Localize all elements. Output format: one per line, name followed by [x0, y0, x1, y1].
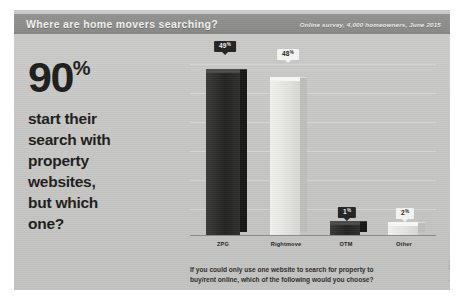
infographic-card: Where are home movers searching? Online … [14, 10, 450, 290]
headline-line: search with [28, 129, 178, 150]
category-label-zpg: ZPG [217, 241, 229, 247]
bar-value-percent: % [290, 50, 294, 55]
bar-front-face [270, 81, 300, 235]
headline-text: start their search with property website… [28, 108, 178, 234]
header-band: Where are home movers searching? Online … [14, 14, 450, 34]
category-label-otm: OTM [339, 241, 352, 247]
bar-otm [330, 225, 360, 235]
headline-line: but which [28, 192, 178, 213]
infographic-page: Where are home movers searching? Online … [0, 0, 464, 304]
bar-value-label-rightmove: 48% [277, 49, 299, 60]
bar-side-face [240, 70, 247, 232]
bar-side-face [418, 223, 425, 232]
big-stat-value: 90 [28, 53, 73, 101]
bar-rightmove [270, 81, 300, 235]
bar-value-number: 48 [282, 50, 289, 57]
page-title: Where are home movers searching? [26, 18, 218, 30]
survey-question: If you could only use one website to sea… [190, 265, 426, 284]
bar-value-number: 49 [219, 42, 226, 49]
bar-chart: 49% 48% 1% [190, 44, 436, 260]
category-label-rightmove: Rightmove [271, 241, 302, 247]
bar-front-face [206, 73, 240, 235]
source-credit: Source: Zoopla Property Group, June 2015 [448, 259, 450, 290]
survey-question-line: buy/rent online, which of the following … [190, 275, 426, 285]
headline-line: property [28, 150, 178, 171]
chart-plot-area: 49% 48% 1% [190, 44, 436, 236]
bar-value-label-zpg: 49% [214, 41, 236, 52]
bar-front-face [330, 225, 360, 235]
big-stat-percent-symbol: % [73, 57, 90, 79]
category-label-other: Other [396, 241, 412, 247]
bar-front-face [388, 226, 418, 235]
bar-zpg [206, 73, 240, 235]
bar-value-percent: % [227, 42, 231, 47]
headline-line: one? [28, 213, 178, 234]
bar-side-face [360, 222, 367, 232]
survey-question-line: If you could only use one website to sea… [190, 265, 426, 275]
big-stat: 90% [28, 46, 178, 99]
gridline [190, 64, 436, 65]
bar-value-label-other: 2% [396, 208, 414, 219]
bar-value-percent: % [405, 209, 409, 214]
survey-meta-text: Online survey, 4,000 homeowners, June 20… [300, 21, 441, 28]
bar-value-percent: % [347, 208, 351, 213]
chart-baseline [190, 235, 436, 236]
bar-other [388, 226, 418, 235]
bar-value-label-otm: 1% [338, 207, 356, 218]
headline-line: websites, [28, 171, 178, 192]
bar-side-face [300, 78, 307, 232]
headline-line: start their [28, 108, 178, 129]
headline-block: 90% start their search with property web… [28, 46, 178, 234]
